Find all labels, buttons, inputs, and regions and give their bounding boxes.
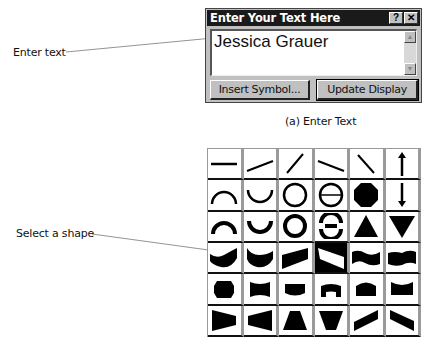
shape-thick-circle[interactable] — [279, 212, 315, 243]
shape-trapezoid-left[interactable] — [244, 306, 280, 337]
cup-top-icon — [316, 276, 346, 302]
text-input[interactable]: Jessica Grauer ▲ ▼ — [210, 29, 417, 76]
help-button[interactable]: ? — [389, 12, 403, 24]
shape-bowl-bottom[interactable] — [279, 274, 315, 305]
enter-text-dialog: Enter Your Text Here ? ✕ Jessica Grauer … — [205, 8, 422, 103]
shape-steep-falling-line[interactable] — [350, 149, 386, 180]
shape-pinch[interactable] — [244, 274, 280, 305]
slant-falling-icon — [387, 307, 417, 333]
shape-wedge-rising[interactable] — [279, 243, 315, 274]
shape-shallow-rising-line[interactable] — [244, 149, 280, 180]
shape-thick-arc-bottom[interactable] — [244, 212, 280, 243]
trapezoid-up-icon — [280, 307, 310, 333]
shape-arc-top[interactable] — [208, 180, 244, 211]
shape-thick-arc-top[interactable] — [208, 212, 244, 243]
wave-band-icon — [351, 245, 381, 271]
vertical-scrollbar[interactable]: ▲ ▼ — [404, 31, 416, 75]
arc-top-icon — [209, 182, 239, 208]
shape-wave-band-2[interactable] — [386, 243, 422, 274]
shape-steep-rising-line[interactable] — [279, 149, 315, 180]
triangle-down-icon — [387, 213, 417, 239]
shape-wave-bowl[interactable] — [244, 243, 280, 274]
update-display-button[interactable]: Update Display — [317, 80, 418, 100]
shape-circle-with-bar[interactable] — [315, 180, 351, 211]
wedge-rising-icon — [280, 245, 310, 271]
shape-down-arrow-line[interactable] — [386, 180, 422, 211]
octagon-icon — [351, 182, 381, 208]
wave-cup-icon — [209, 245, 239, 271]
horizontal-line-icon — [209, 151, 239, 177]
shape-triangle-down[interactable] — [386, 212, 422, 243]
circle-with-bar-icon — [316, 182, 346, 208]
thick-arc-bottom-icon — [245, 213, 275, 239]
thick-circle-icon — [280, 213, 310, 239]
wedge-falling-icon — [316, 245, 346, 271]
thick-arc-top-icon — [209, 213, 239, 239]
steep-rising-line-icon — [280, 151, 310, 177]
shape-cup-top-2[interactable] — [386, 274, 422, 305]
dialog-titlebar[interactable]: Enter Your Text Here ? ✕ — [207, 10, 420, 26]
slant-rising-icon — [351, 307, 381, 333]
shape-up-arrow-line[interactable] — [386, 149, 422, 180]
shape-cup-top[interactable] — [315, 274, 351, 305]
shape-grid — [207, 148, 421, 337]
arc-bottom-icon — [245, 182, 275, 208]
dialog-title: Enter Your Text Here — [210, 11, 340, 25]
callout-select-shape: Select a shape — [16, 227, 94, 240]
wave-bowl-icon — [245, 245, 275, 271]
shape-wave-band[interactable] — [350, 243, 386, 274]
insert-symbol-button[interactable]: Insert Symbol... — [210, 80, 310, 100]
shape-arc-bottom[interactable] — [244, 180, 280, 211]
trapezoid-left-icon — [245, 307, 275, 333]
shape-wave-cup[interactable] — [208, 243, 244, 274]
scroll-up-button[interactable]: ▲ — [404, 31, 416, 43]
shape-triangle-up[interactable] — [350, 212, 386, 243]
shape-wedge-falling-inverted[interactable] — [315, 243, 351, 274]
text-input-value: Jessica Grauer — [214, 32, 328, 52]
thick-circle-with-bar-icon — [316, 213, 346, 239]
cup-top-2-icon — [387, 276, 417, 302]
shape-slant-falling[interactable] — [386, 306, 422, 337]
shape-trapezoid-up[interactable] — [279, 306, 315, 337]
shape-dome-top[interactable] — [350, 274, 386, 305]
shape-slant-rising[interactable] — [350, 306, 386, 337]
shallow-falling-line-icon — [316, 151, 346, 177]
shape-circle[interactable] — [279, 180, 315, 211]
shape-shallow-falling-line[interactable] — [315, 149, 351, 180]
shape-barrel[interactable] — [208, 274, 244, 305]
close-button[interactable]: ✕ — [404, 12, 418, 24]
shape-octagon[interactable] — [350, 180, 386, 211]
wave-band-2-icon — [387, 245, 417, 271]
up-arrow-line-icon — [387, 151, 417, 177]
shallow-rising-line-icon — [245, 151, 275, 177]
shape-horizontal-line[interactable] — [208, 149, 244, 180]
circle-icon — [280, 182, 310, 208]
trapezoid-right-icon — [209, 307, 239, 333]
trapezoid-down-icon — [316, 307, 346, 333]
pinch-icon — [245, 276, 275, 302]
triangle-up-icon — [351, 213, 381, 239]
steep-falling-line-icon — [351, 151, 381, 177]
dome-top-icon — [351, 276, 381, 302]
bowl-bottom-icon — [280, 276, 310, 302]
barrel-icon — [209, 276, 239, 302]
callout-enter-text: Enter text — [13, 46, 66, 59]
scroll-down-button[interactable]: ▼ — [404, 63, 416, 75]
shape-thick-circle-with-bar[interactable] — [315, 212, 351, 243]
shape-trapezoid-right[interactable] — [208, 306, 244, 337]
figure-caption: (a) Enter Text — [285, 115, 356, 128]
shape-trapezoid-down[interactable] — [315, 306, 351, 337]
down-arrow-line-icon — [387, 182, 417, 208]
